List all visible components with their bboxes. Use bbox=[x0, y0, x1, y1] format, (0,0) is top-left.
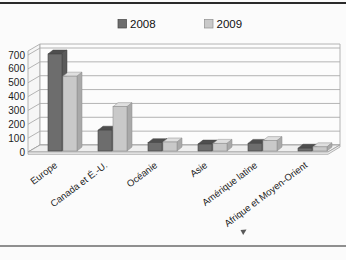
bar-front-face bbox=[148, 143, 162, 151]
y-axis-tick-labels: 0100200300400500600700 bbox=[8, 50, 25, 158]
category-label: Europe bbox=[28, 159, 59, 186]
bar-front-face bbox=[313, 147, 327, 151]
y-tick-label: 700 bbox=[8, 50, 25, 61]
bar-2009 bbox=[263, 137, 282, 151]
legend-label: 2008 bbox=[130, 18, 156, 30]
bar-front-face bbox=[63, 76, 77, 151]
legend-swatch bbox=[205, 20, 214, 29]
legend-item: 2009 bbox=[205, 18, 243, 30]
bar-front-face bbox=[48, 54, 62, 151]
bar-side-face bbox=[127, 103, 132, 151]
y-tick-label: 400 bbox=[8, 91, 25, 102]
y-tick-label: 200 bbox=[8, 119, 25, 130]
category-label: Asie bbox=[188, 159, 209, 179]
bar-front-face bbox=[263, 141, 277, 151]
y-tick-label: 100 bbox=[8, 133, 25, 144]
bar-2009 bbox=[113, 103, 132, 151]
y-tick-label: 500 bbox=[8, 77, 25, 88]
category-label: Afrique et Moyen-Orient bbox=[222, 159, 309, 229]
bar-front-face bbox=[98, 130, 112, 151]
bar-front-face bbox=[163, 142, 177, 151]
chart-legend: 20082009 bbox=[118, 18, 242, 30]
bar-front-face bbox=[213, 143, 227, 151]
category-axis-labels: EuropeCanada et É.-U.OcéanieAsieAmérique… bbox=[28, 159, 309, 229]
mouse-cursor-mark bbox=[241, 230, 247, 236]
y-tick-label: 300 bbox=[8, 105, 25, 116]
bar-2009 bbox=[63, 72, 82, 151]
legend-swatch bbox=[118, 20, 127, 29]
y-tick-label: 0 bbox=[19, 147, 25, 158]
bar-2009 bbox=[163, 138, 182, 151]
bar-front-face bbox=[113, 107, 127, 151]
back-wall bbox=[40, 44, 340, 145]
bar-2009 bbox=[213, 139, 232, 151]
y-tick-label: 600 bbox=[8, 63, 25, 74]
bar-chart: 0100200300400500600700 EuropeCanada et É… bbox=[0, 0, 346, 260]
left-wall bbox=[28, 44, 40, 152]
bar-side-face bbox=[77, 72, 82, 151]
bar-front-face bbox=[198, 144, 212, 151]
bar-front-face bbox=[248, 143, 262, 151]
category-label: Océanie bbox=[124, 159, 159, 189]
legend-label: 2009 bbox=[217, 18, 243, 30]
legend-item: 2008 bbox=[118, 18, 156, 30]
bar-front-face bbox=[298, 148, 312, 151]
